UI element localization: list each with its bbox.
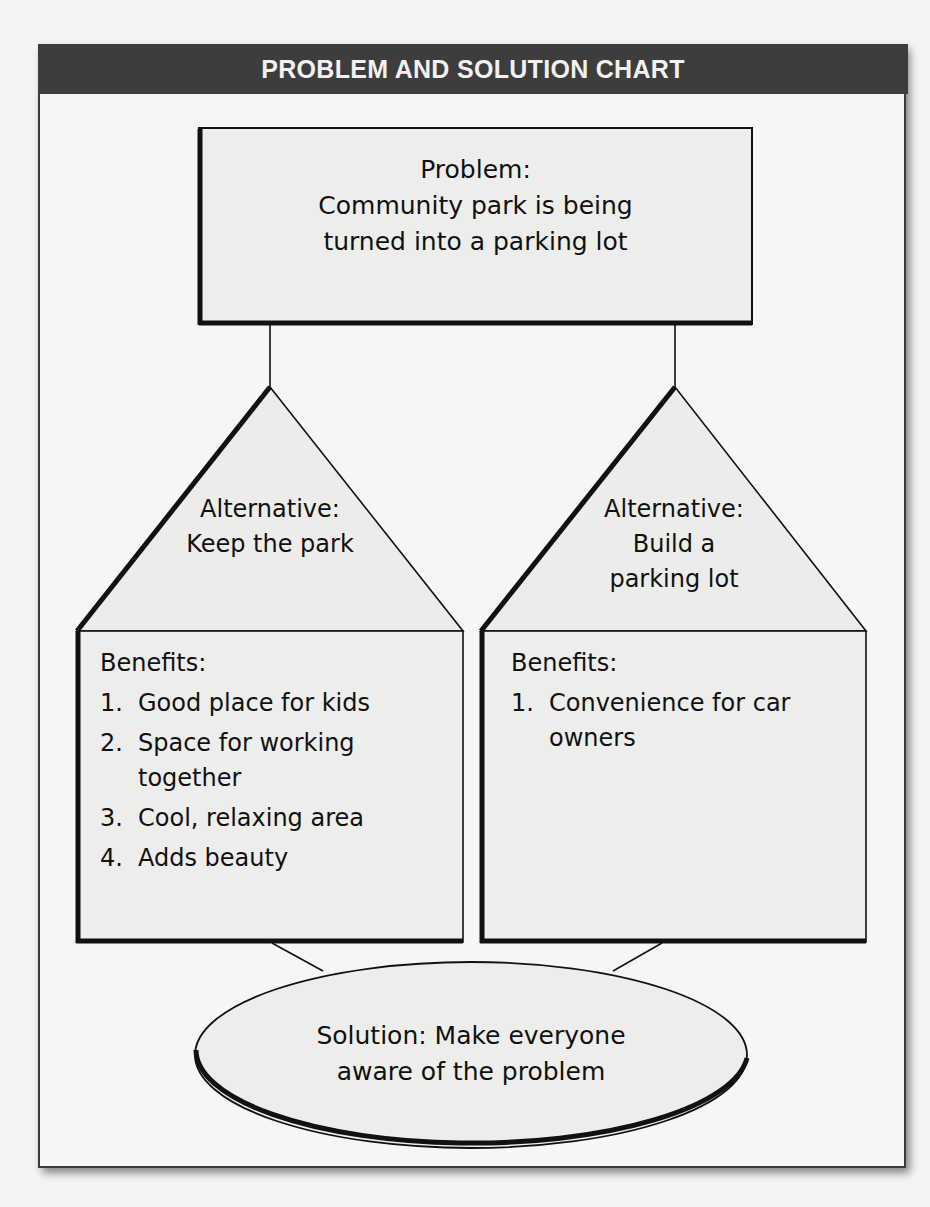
alternative-right-line2: parking lot [564,562,784,597]
problem-line2: turned into a parking lot [199,224,752,260]
benefit-number: 1. [511,686,549,756]
solution-line2: aware of the problem [250,1054,692,1090]
benefits-left: Benefits: 1. Good place for kids 2. Spac… [100,646,445,881]
benefit-number: 3. [100,801,138,836]
alternative-left-text: Alternative: Keep the park [160,492,380,562]
benefit-text: Good place for kids [138,686,445,721]
problem-line1: Community park is being [199,188,752,224]
solution-text: Solution: Make everyone aware of the pro… [250,1018,692,1090]
benefit-text: Cool, relaxing area [138,801,445,836]
benefits-left-heading: Benefits: [100,646,445,681]
benefit-text: Convenience for car owners [549,686,824,756]
benefit-item: 1. Good place for kids [100,686,445,721]
benefit-text: Adds beauty [138,841,445,876]
benefits-right: Benefits: 1. Convenience for car owners [511,646,841,761]
benefit-item: 2. Space for working together [100,726,445,796]
benefit-number: 4. [100,841,138,876]
benefit-item: 3. Cool, relaxing area [100,801,445,836]
alternative-right-line1: Build a [564,527,784,562]
solution-line1: Solution: Make everyone [250,1018,692,1054]
benefit-number: 2. [100,726,138,796]
problem-text: Problem: Community park is being turned … [199,152,752,260]
benefit-item: 4. Adds beauty [100,841,445,876]
alternative-left-label: Alternative: [160,492,380,527]
alternative-left-line1: Keep the park [160,527,380,562]
benefit-text: Space for working together [138,726,388,796]
benefit-item: 1. Convenience for car owners [511,686,841,756]
alternative-right-text: Alternative: Build a parking lot [564,492,784,597]
benefits-right-heading: Benefits: [511,646,841,681]
benefit-number: 1. [100,686,138,721]
connector-left-solution [272,943,323,971]
problem-label: Problem: [199,152,752,188]
alternative-right-label: Alternative: [564,492,784,527]
connector-right-solution [613,943,662,971]
